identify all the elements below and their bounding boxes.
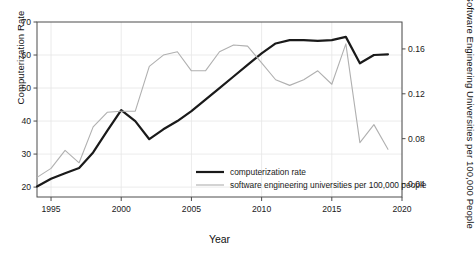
y-tick-label-left: 70: [21, 17, 31, 27]
legend-label-0[interactable]: computerization rate: [230, 167, 306, 177]
y-axis-right-ticks: 0.040.080.120.16: [402, 44, 425, 189]
x-axis-ticks: 199520002005201020152020: [41, 197, 411, 214]
x-tick-label: 2010: [252, 204, 271, 214]
y-tick-label-right: 0.16: [408, 44, 425, 54]
y-tick-label-right: 0.12: [408, 89, 425, 99]
x-tick-label: 2015: [322, 204, 341, 214]
y-tick-label-left: 30: [21, 149, 31, 159]
y-axis-left-ticks: 203040506070: [21, 17, 37, 192]
x-tick-label: 2000: [112, 204, 131, 214]
chart-legend: computerization ratesoftware engineering…: [196, 167, 427, 190]
y-tick-label-left: 60: [21, 50, 31, 60]
y-tick-label-left: 50: [21, 83, 31, 93]
legend-label-1[interactable]: software engineering universities per 10…: [230, 180, 427, 190]
x-tick-label: 1995: [41, 204, 60, 214]
gridlines: [37, 22, 402, 197]
y-tick-label-left: 20: [21, 182, 31, 192]
x-tick-label: 2020: [392, 204, 411, 214]
series-line-computerization: [37, 37, 388, 187]
plot-frame: [37, 22, 402, 197]
data-series-layer: [37, 37, 388, 187]
y-tick-label-right: 0.08: [408, 134, 425, 144]
x-tick-label: 2005: [182, 204, 201, 214]
y-tick-label-left: 40: [21, 116, 31, 126]
